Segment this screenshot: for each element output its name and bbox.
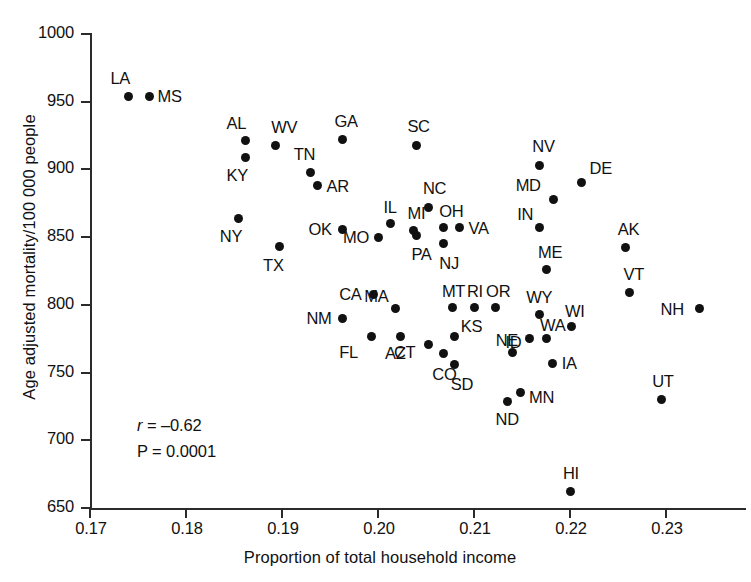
data-point-label: OR <box>486 283 510 300</box>
data-point-label: VT <box>624 266 644 283</box>
data-point <box>450 332 459 341</box>
data-point-label: MI <box>408 205 426 222</box>
statistics-annotation: r = –0.62 P = 0.0001 <box>137 412 216 464</box>
data-point-label: UT <box>652 373 673 390</box>
data-point <box>542 334 551 343</box>
y-tick-mark <box>81 168 90 170</box>
x-tick-label: 0.19 <box>248 519 318 538</box>
x-tick-mark <box>569 509 571 518</box>
data-point-label: SC <box>407 118 429 135</box>
y-tick-label: 650 <box>18 497 74 516</box>
data-point <box>271 141 280 150</box>
data-point-label: IL <box>383 199 396 216</box>
data-point <box>241 153 250 162</box>
x-tick-label: 0.22 <box>536 519 606 538</box>
correlation-symbol: r <box>137 416 142 434</box>
data-point-label: KY <box>227 167 248 184</box>
data-point-label: SD <box>451 376 473 393</box>
data-point-label: OK <box>308 221 331 238</box>
data-point-label: WI <box>565 303 585 320</box>
data-point-label: NM <box>306 310 331 327</box>
data-point-label: MA <box>364 288 388 305</box>
x-tick-mark <box>185 509 187 518</box>
data-point <box>396 332 405 341</box>
data-point <box>338 314 347 323</box>
y-tick-mark <box>81 101 90 103</box>
data-point-label: MD <box>516 177 541 194</box>
data-point <box>535 223 544 232</box>
data-point <box>145 92 154 101</box>
data-point <box>306 168 315 177</box>
data-point-label: WA <box>540 317 565 334</box>
data-point <box>374 233 383 242</box>
data-point-label: NC <box>423 180 446 197</box>
data-point-label: LA <box>110 70 130 87</box>
x-tick-label: 0.21 <box>440 519 510 538</box>
data-point-label: ND <box>496 411 519 428</box>
data-point-label: CT <box>394 344 415 361</box>
data-point-label: TN <box>294 146 315 163</box>
data-point <box>367 332 376 341</box>
data-point-label: KS <box>461 318 482 335</box>
data-point <box>424 340 433 349</box>
data-point <box>535 161 544 170</box>
data-point-label: PA <box>411 246 431 263</box>
y-tick-label: 800 <box>18 294 74 313</box>
data-point-label: NY <box>220 228 242 245</box>
data-point <box>386 219 395 228</box>
x-tick-mark <box>89 509 91 518</box>
data-point-label: TX <box>263 257 283 274</box>
data-point-label: IA <box>562 355 577 372</box>
data-point <box>566 487 575 496</box>
data-point-label: DE <box>590 160 612 177</box>
y-tick-label: 700 <box>18 429 74 448</box>
data-point-label: ID <box>505 334 521 351</box>
data-point-label: MO <box>343 229 369 246</box>
y-tick-label: 850 <box>18 226 74 245</box>
x-tick-mark <box>377 509 379 518</box>
data-point <box>657 395 666 404</box>
data-point <box>439 223 448 232</box>
data-point <box>542 265 551 274</box>
y-tick-mark <box>81 236 90 238</box>
data-point <box>124 92 133 101</box>
x-tick-mark <box>473 509 475 518</box>
data-point <box>470 303 479 312</box>
x-axis-line <box>89 508 746 510</box>
y-tick-mark <box>81 33 90 35</box>
data-point-label: WY <box>526 289 552 306</box>
x-axis-label: Proportion of total household income <box>90 548 670 567</box>
x-tick-mark <box>665 509 667 518</box>
y-tick-mark <box>81 304 90 306</box>
x-tick-mark <box>281 509 283 518</box>
data-point-label: VA <box>469 220 489 237</box>
y-tick-label: 1000 <box>18 23 74 42</box>
data-point-label: RI <box>467 283 483 300</box>
x-tick-label: 0.20 <box>344 519 414 538</box>
pvalue-line: P = 0.0001 <box>137 438 216 464</box>
data-point <box>503 397 512 406</box>
data-point <box>549 195 558 204</box>
data-point-label: CA <box>339 286 361 303</box>
data-point <box>439 349 448 358</box>
data-point-label: IN <box>517 206 533 223</box>
data-point-label: OH <box>439 203 463 220</box>
x-tick-label: 0.23 <box>632 519 702 538</box>
correlation-line: r = –0.62 <box>137 412 216 438</box>
data-point-label: AK <box>618 221 639 238</box>
data-point <box>412 141 421 150</box>
data-point-label: AR <box>327 178 349 195</box>
data-point-label: MN <box>529 389 554 406</box>
data-point <box>234 214 243 223</box>
data-point <box>548 359 557 368</box>
data-point-label: NH <box>661 301 684 318</box>
data-point-label: NV <box>532 138 554 155</box>
y-tick-mark <box>81 372 90 374</box>
data-point-label: GA <box>334 113 357 130</box>
data-point-label: HI <box>563 465 579 482</box>
data-point-label: FL <box>339 344 358 361</box>
y-tick-label: 750 <box>18 362 74 381</box>
data-point <box>491 303 500 312</box>
data-point-label: ME <box>538 244 562 261</box>
correlation-value: = –0.62 <box>147 416 202 434</box>
